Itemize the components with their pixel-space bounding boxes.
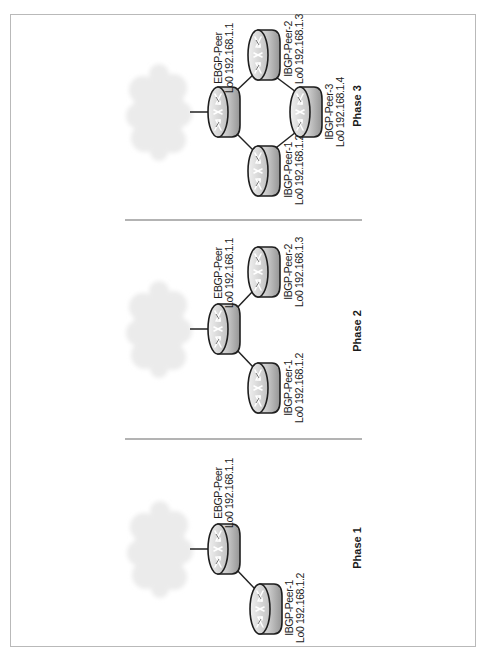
phase-1-group: EBGP-Peer Lo0 192.168.1.1 IBGP-Peer-1 Lo…	[127, 457, 363, 642]
phase-2-group: EBGP-Peer Lo0 192.168.1.1 IBGP-Peer-2 Lo…	[126, 236, 363, 422]
router-icon	[208, 524, 240, 574]
phase-title: Phase 1	[351, 527, 363, 569]
router-loopback-label: Lo0 192.168.1.1	[223, 22, 235, 92]
router-loopback-label: Lo0 192.168.1.4	[334, 76, 346, 146]
router-icon	[208, 87, 240, 137]
router-icon	[248, 363, 280, 413]
router-loopback-label: Lo0 192.168.1.2	[294, 572, 306, 642]
router-loopback-label: Lo0 192.168.1.2	[293, 134, 305, 204]
phase-title: Phase 2	[351, 310, 363, 352]
router-loopback-label: Lo0 192.168.1.2	[293, 352, 305, 422]
router-icon	[248, 30, 280, 80]
phase-3-group: EBGP-Peer Lo0 192.168.1.1 IBGP-Peer-2 Lo…	[126, 13, 363, 204]
router-icon	[290, 87, 322, 137]
internet-cloud-icon	[126, 64, 192, 161]
router-icon	[248, 146, 280, 196]
internet-cloud-icon	[126, 281, 192, 378]
phase-title: Phase 3	[351, 85, 363, 127]
router-loopback-label: Lo0 192.168.1.3	[293, 236, 305, 306]
internet-cloud-icon	[127, 501, 193, 598]
router-loopback-label: Lo0 192.168.1.1	[223, 237, 235, 307]
router-loopback-label: Lo0 192.168.1.3	[293, 13, 305, 83]
router-icon	[248, 247, 280, 297]
router-icon	[208, 304, 240, 354]
bgp-phases-diagram: EBGP-Peer Lo0 192.168.1.1 IBGP-Peer-2 Lo…	[0, 0, 485, 654]
router-loopback-label: Lo0 192.168.1.1	[223, 457, 235, 527]
router-icon	[250, 584, 282, 634]
